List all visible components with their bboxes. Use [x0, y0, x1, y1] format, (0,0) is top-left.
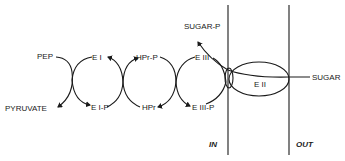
label-in: IN [209, 140, 217, 149]
label-out: OUT [296, 140, 314, 149]
label-eip: E I-P [91, 103, 109, 112]
label-hpr: HPr [142, 103, 156, 112]
eiii-cycle-right-arc [206, 58, 226, 104]
label-pyruvate: PYRUVATE [5, 104, 47, 113]
label-hprp: HPr-P [136, 53, 158, 62]
label-ei: E I [92, 53, 102, 62]
label-eiii: E III [195, 53, 209, 62]
label-sugar: SUGAR [312, 73, 341, 82]
ei-cycle-left-arc [72, 57, 92, 105]
hpr-cycle-right-arc [158, 57, 176, 107]
hpr-cycle-left-arc [123, 58, 140, 107]
label-pep: PEP [37, 52, 53, 61]
label-sugar-p: SUGAR-P [184, 22, 220, 31]
ei-cycle-right-arc [107, 57, 123, 107]
pts-diagram: PEP PYRUVATE E I E I-P HPr-P HPr E III E… [0, 0, 345, 161]
label-eiiip: E III-P [192, 103, 214, 112]
eii-ellipse [229, 62, 289, 96]
pep-pyruvate-arc [56, 57, 72, 107]
label-eii: E II [254, 80, 266, 89]
eiii-cycle-left-arc [176, 57, 195, 106]
